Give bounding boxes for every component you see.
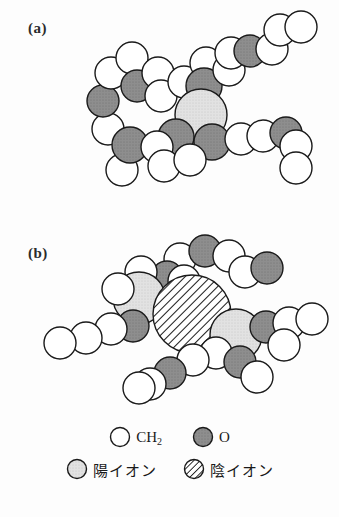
white-circle-icon: [109, 426, 131, 448]
legend-row-1: CH2 O: [0, 426, 339, 448]
legend-row-2: 陽イオン 陰イオン: [0, 458, 339, 480]
legend-label-oxygen: O: [219, 429, 230, 446]
legend-label-cation: 陽イオン: [93, 459, 157, 480]
figure-root: (a): [0, 0, 339, 517]
legend-item-oxygen: O: [192, 426, 230, 448]
light-gray-circle-icon: [66, 458, 88, 480]
hatched-circle-icon: [183, 458, 205, 480]
legend-label-ch2-subscript: 2: [157, 436, 162, 447]
legend-item-ch2: CH2: [109, 426, 162, 448]
panel-a-molecular-diagram: [0, 0, 339, 220]
panel-b-molecular-diagram: [0, 232, 339, 412]
legend-label-anion: 陰イオン: [210, 459, 274, 480]
legend-item-anion: 陰イオン: [183, 458, 274, 480]
legend-label-ch2: CH2: [136, 429, 162, 446]
dark-gray-circle-icon: [192, 426, 214, 448]
legend: CH2 O: [0, 424, 339, 514]
legend-item-cation: 陽イオン: [66, 458, 157, 480]
